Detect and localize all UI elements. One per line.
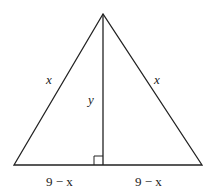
right-angle-marker <box>94 156 103 165</box>
label-base-right: 9 − x <box>135 174 162 189</box>
label-altitude: y <box>86 92 94 107</box>
triangle-diagram: x x y 9 − x 9 − x <box>0 0 211 194</box>
label-right-side: x <box>153 72 160 87</box>
label-base-left: 9 − x <box>46 174 73 189</box>
label-left-side: x <box>45 72 52 87</box>
triangle <box>14 14 202 165</box>
